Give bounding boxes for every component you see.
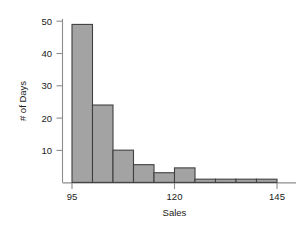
x-tick-label-95: 95 — [67, 191, 78, 202]
chart-canvas: 50 40 30 20 10 # of Days 95 120 145 Sale… — [0, 0, 304, 226]
histogram-bar — [195, 179, 216, 182]
histogram-bar — [175, 168, 196, 183]
histogram-bar — [257, 179, 278, 182]
histogram-bar — [72, 24, 93, 182]
y-tick-label-40: 40 — [41, 48, 52, 59]
histogram-bar — [216, 179, 237, 182]
histogram-bar — [134, 165, 155, 183]
histogram-figure: 50 40 30 20 10 # of Days 95 120 145 Sale… — [0, 0, 304, 226]
histogram-bar — [154, 173, 175, 183]
y-tick-label-30: 30 — [41, 80, 52, 91]
x-tick-label-120: 120 — [167, 191, 183, 202]
x-tick-label-145: 145 — [269, 191, 285, 202]
y-axis-title: # of Days — [17, 81, 28, 121]
histogram-bar — [113, 150, 134, 182]
x-axis-title: Sales — [163, 207, 187, 218]
histogram-bar — [93, 105, 114, 182]
histogram-bars-group — [72, 24, 277, 182]
y-tick-label-50: 50 — [41, 16, 52, 27]
y-tick-label-10: 10 — [41, 145, 52, 156]
histogram-bar — [236, 179, 257, 182]
y-tick-label-20: 20 — [41, 113, 52, 124]
